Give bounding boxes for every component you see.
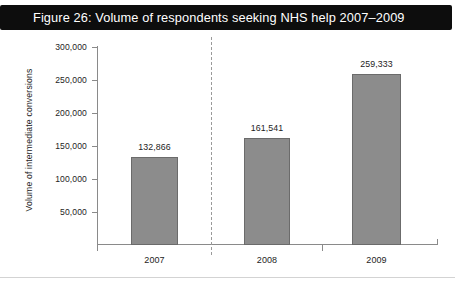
y-tick-mark-100000 xyxy=(92,179,98,180)
figure-title: Figure 26: Volume of respondents seeking… xyxy=(33,10,405,25)
x-category-label-2008: 2008 xyxy=(233,255,301,265)
y-tick-label-250000: 250,000 xyxy=(55,75,87,85)
x-tick-mark-end xyxy=(437,239,438,245)
x-tick-mark-origin xyxy=(97,245,98,251)
bar-2008[interactable] xyxy=(244,138,290,245)
bar-value-label-2007: 132,866 xyxy=(121,142,188,152)
y-axis-title: Volume of intermediate conversions xyxy=(24,45,34,235)
bar-2007[interactable] xyxy=(131,157,178,245)
x-category-label-2009: 2009 xyxy=(343,255,410,265)
page-bottom-rule xyxy=(0,277,455,278)
y-tick-label-50000: 50,000 xyxy=(60,207,87,217)
y-tick-label-200000: 200,000 xyxy=(55,108,87,118)
period-divider-dashed-line xyxy=(211,37,212,255)
bar-value-label-2008: 161,541 xyxy=(233,123,301,133)
y-tick-mark-150000 xyxy=(92,146,98,147)
y-tick-mark-250000 xyxy=(92,80,98,81)
bar-value-label-2009: 259,333 xyxy=(343,59,410,69)
y-tick-label-300000: 300,000 xyxy=(55,42,87,52)
x-tick-mark-mid xyxy=(322,245,323,251)
bar-2009[interactable] xyxy=(352,74,401,245)
y-tick-mark-50000 xyxy=(92,212,98,213)
y-tick-label-100000: 100,000 xyxy=(55,174,87,184)
bar-chart: Volume of intermediate conversions 300,0… xyxy=(0,30,455,281)
y-tick-mark-200000 xyxy=(92,113,98,114)
y-tick-mark-300000 xyxy=(92,47,98,48)
figure-title-bar: Figure 26: Volume of respondents seeking… xyxy=(0,5,452,30)
x-category-label-2007: 2007 xyxy=(121,255,188,265)
y-tick-label-150000: 150,000 xyxy=(55,141,87,151)
